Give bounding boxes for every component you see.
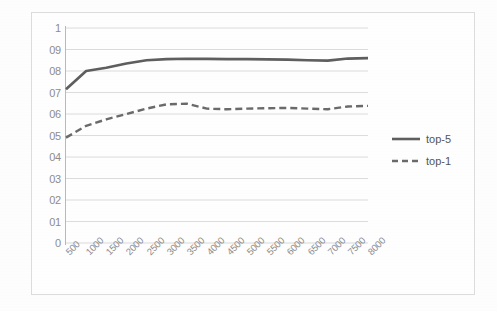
y-axis-tick-labels: 10908070605040302010 bbox=[33, 20, 61, 251]
series-line-top-5 bbox=[66, 58, 368, 89]
chart-container: 10908070605040302010 5001000150020002500… bbox=[0, 0, 497, 311]
legend-dashed-line-icon bbox=[392, 156, 420, 166]
y-axis-tick-label: 09 bbox=[33, 45, 61, 56]
series-lines bbox=[66, 28, 368, 243]
y-axis-tick-label: 0 bbox=[33, 238, 61, 249]
y-axis-tick-label: 1 bbox=[33, 23, 61, 34]
y-axis-tick-label: 06 bbox=[33, 109, 61, 120]
y-axis-tick-label: 02 bbox=[33, 195, 61, 206]
legend-solid-line-icon bbox=[392, 134, 420, 144]
legend-item-top-1[interactable]: top-1 bbox=[392, 150, 470, 172]
legend-label-top-5: top-5 bbox=[426, 134, 451, 145]
y-axis-tick-label: 04 bbox=[33, 152, 61, 163]
y-axis-tick-label: 03 bbox=[33, 174, 61, 185]
legend-label-top-1: top-1 bbox=[426, 156, 451, 167]
y-axis-tick-label: 07 bbox=[33, 88, 61, 99]
plot-area bbox=[66, 28, 368, 243]
y-axis-tick-label: 05 bbox=[33, 131, 61, 142]
x-axis-tick-labels: 5001000150020002500300035004000450050005… bbox=[66, 246, 376, 292]
y-axis-tick-label: 01 bbox=[33, 217, 61, 228]
legend-item-top-5[interactable]: top-5 bbox=[392, 128, 470, 150]
chart-legend: top-5 top-1 bbox=[392, 128, 470, 172]
series-line-top-1 bbox=[66, 104, 368, 138]
y-axis-tick-label: 08 bbox=[33, 66, 61, 77]
